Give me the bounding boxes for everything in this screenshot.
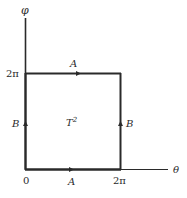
arrow-right-icon xyxy=(69,167,74,172)
theta-max-tick: 2π xyxy=(113,176,126,186)
phi-axis-label: φ xyxy=(21,6,29,16)
edge-label-top: A xyxy=(70,59,77,69)
torus-diagram xyxy=(0,0,187,198)
region-label: T2 xyxy=(66,118,77,128)
arrow-up-icon xyxy=(118,121,123,126)
arrow-up-icon xyxy=(23,121,28,126)
arrow-right-icon xyxy=(76,71,81,76)
edge-label-bottom: A xyxy=(68,177,75,187)
phi-max-tick: 2π xyxy=(6,69,19,79)
origin-tick: 0 xyxy=(23,176,29,186)
theta-axis-label: θ xyxy=(173,165,179,175)
region-label-base: T xyxy=(66,117,73,128)
region-label-superscript: 2 xyxy=(73,116,77,124)
edge-label-right: B xyxy=(126,119,133,129)
edge-label-left: B xyxy=(12,119,19,129)
